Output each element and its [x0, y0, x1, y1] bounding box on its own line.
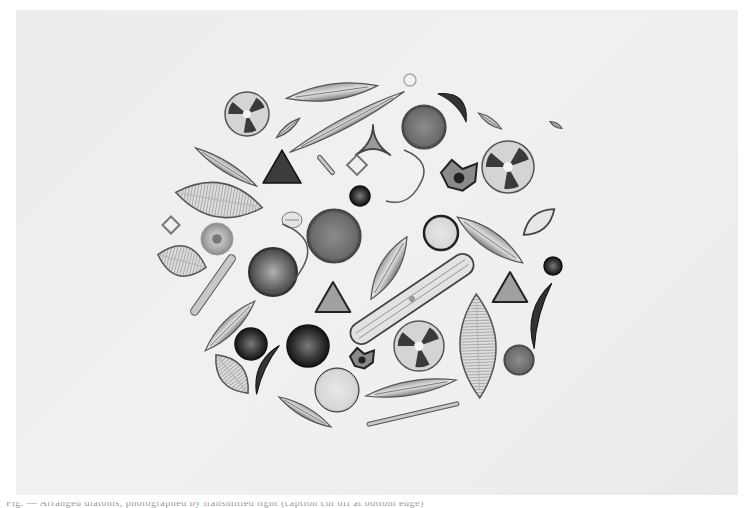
diatom-specimen	[482, 141, 534, 193]
diatom-specimen	[364, 373, 457, 403]
diatom-specimen	[201, 223, 233, 255]
diatom-specimen	[307, 209, 361, 263]
diatom-specimen	[235, 328, 267, 360]
diatom-specimen	[402, 105, 446, 149]
diatom-specimen	[524, 280, 552, 348]
diatom-specimen	[225, 92, 269, 136]
diatom-specimen	[441, 160, 477, 191]
diatom-specimen	[163, 217, 180, 234]
diatom-specimen	[394, 321, 444, 371]
diatom-specimen	[275, 116, 302, 140]
diatom-specimen	[356, 125, 391, 155]
diatom-specimen	[367, 401, 459, 426]
diatom-specimen	[154, 240, 210, 282]
diatom-specimen	[544, 257, 562, 275]
diatom-specimen	[249, 248, 297, 296]
diatom-specimen	[386, 150, 424, 202]
diatom-specimen	[493, 272, 528, 302]
diatom-specimen	[285, 78, 378, 107]
diatom-specimen	[350, 186, 370, 206]
diatom-specimen	[350, 348, 374, 368]
diatom-specimen	[424, 216, 458, 250]
diatom-specimen	[316, 282, 351, 312]
figure-caption: Fig. — Arranged diatoms, photographed by…	[6, 497, 741, 508]
diatom-specimen	[477, 111, 503, 132]
diatom-specimen	[519, 203, 560, 241]
diatom-specimen	[317, 155, 335, 176]
diatom-specimen	[549, 120, 563, 130]
diatom-specimen	[287, 325, 329, 367]
diatom-specimen	[315, 368, 359, 412]
diatom-specimen	[347, 155, 367, 175]
diatom-arrangement	[16, 10, 738, 495]
diatom-specimen	[404, 74, 416, 86]
diatom-specimen	[458, 293, 498, 398]
diatom-specimen	[504, 345, 534, 375]
diatom-specimen	[263, 150, 301, 183]
diatom-photograph-plate	[16, 10, 738, 495]
